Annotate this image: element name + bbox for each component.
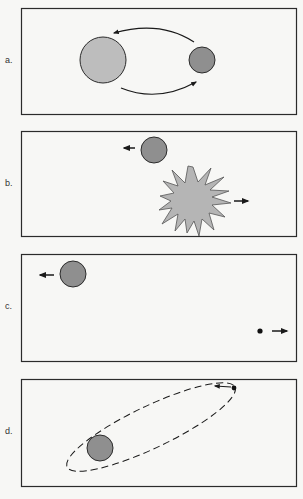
arrow-left-icon bbox=[215, 386, 231, 387]
supernova-explosion-icon bbox=[159, 166, 231, 236]
small-star bbox=[189, 47, 215, 73]
orbit-arrow-bottom-icon bbox=[121, 82, 196, 94]
remnant-dot bbox=[232, 386, 237, 391]
orbit-arrow-top-icon bbox=[114, 28, 194, 42]
panel-d bbox=[22, 368, 297, 486]
panel-c bbox=[22, 255, 297, 362]
small-star bbox=[60, 261, 86, 287]
diagram-canvas bbox=[0, 0, 303, 499]
large-star bbox=[80, 37, 126, 83]
panel-d-frame bbox=[22, 380, 297, 487]
panel-a-frame bbox=[22, 9, 297, 115]
small-star bbox=[87, 435, 113, 461]
panel-a bbox=[22, 9, 297, 115]
small-star bbox=[141, 137, 167, 163]
remnant-dot bbox=[257, 328, 262, 333]
panel-b bbox=[22, 132, 297, 237]
